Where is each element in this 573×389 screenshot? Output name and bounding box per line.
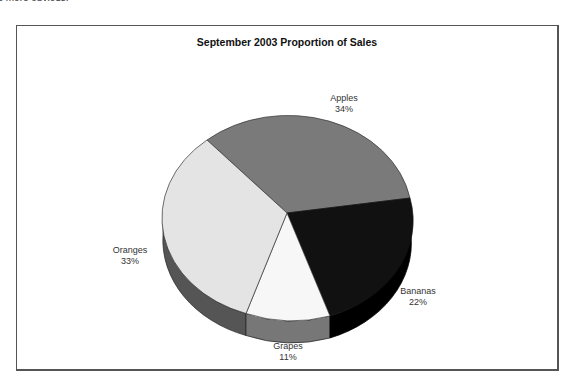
label-grapes: Grapes 11% [258, 341, 318, 363]
label-bananas-pct: 22% [388, 297, 448, 308]
label-apples: Apples 34% [314, 93, 374, 115]
label-apples-pct: 34% [314, 104, 374, 115]
label-grapes-pct: 11% [258, 352, 318, 363]
label-oranges-pct: 33% [100, 256, 160, 267]
label-bananas-name: Bananas [388, 286, 448, 297]
label-oranges: Oranges 33% [100, 245, 160, 267]
label-apples-name: Apples [314, 93, 374, 104]
label-bananas: Bananas 22% [388, 286, 448, 308]
label-oranges-name: Oranges [100, 245, 160, 256]
label-grapes-name: Grapes [258, 341, 318, 352]
pie-chart [0, 0, 573, 389]
